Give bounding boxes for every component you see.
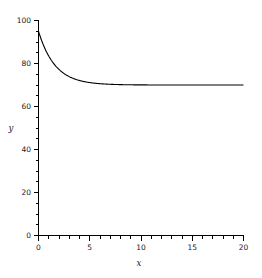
y-tick-label: 100 [17, 16, 32, 25]
x-tick-label: 10 [136, 243, 146, 252]
x-tick-label: 15 [187, 243, 197, 252]
plot-container: 020406080100 05101520 y x [0, 0, 262, 278]
y-tick-label: 0 [26, 231, 31, 240]
y-axis-label: y [8, 123, 14, 133]
x-tick-label: 0 [36, 243, 41, 252]
y-tick-label: 60 [21, 102, 31, 111]
x-tick-label: 5 [87, 243, 92, 252]
y-tick-label: 80 [21, 59, 31, 68]
chart-canvas: 020406080100 05101520 y x [0, 0, 262, 278]
y-tick-label: 40 [21, 145, 31, 154]
x-tick-label: 20 [239, 243, 249, 252]
x-axis-label: x [137, 258, 142, 268]
y-tick-label: 20 [21, 188, 31, 197]
